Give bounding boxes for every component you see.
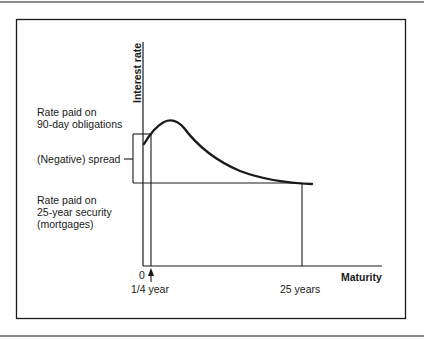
diagram-canvas [0, 0, 424, 340]
spread-label: (Negative) spread [37, 153, 120, 165]
y-axis-label: Interest rate [131, 43, 143, 103]
twenty-five-year-label: 25 years [280, 283, 320, 295]
quarter-year-label: 1/4 year [131, 283, 169, 295]
short-rate-label-1: Rate paid on [37, 106, 97, 118]
quarter-year-arrow-icon [148, 268, 154, 276]
yield-curve [144, 120, 312, 184]
origin-label: 0 [139, 269, 145, 281]
long-rate-label-2: 25-year security [37, 206, 112, 218]
long-rate-label-3: (mortgages) [37, 218, 94, 230]
x-axis-label: Maturity [341, 271, 382, 283]
long-rate-label-1: Rate paid on [37, 194, 97, 206]
short-rate-label-2: 90-day obligations [37, 118, 122, 130]
